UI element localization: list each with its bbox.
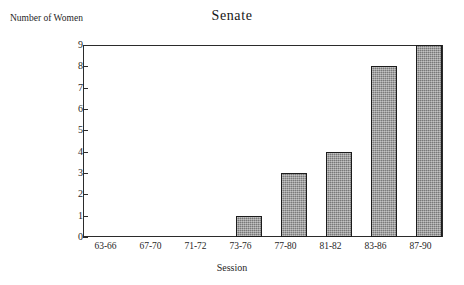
x-axis-tick-label: 81-82 xyxy=(319,241,341,252)
x-axis-tick-label: 67-70 xyxy=(139,241,161,252)
bar xyxy=(326,152,352,237)
y-axis-tick-label: 0 xyxy=(61,232,83,242)
y-axis-tick-label: 1 xyxy=(61,211,83,221)
y-axis-tick-mark xyxy=(83,237,88,238)
bar xyxy=(236,216,262,237)
y-axis-tick-label: 4 xyxy=(61,147,83,157)
chart-title: Senate xyxy=(0,8,464,24)
bar-chart: Number of Women Senate 0123456789 63-666… xyxy=(0,0,464,285)
x-axis-title: Session xyxy=(0,262,464,273)
x-axis-tick-label: 83-86 xyxy=(364,241,386,252)
y-axis-tick-label: 5 xyxy=(61,125,83,135)
x-axis-tick-label: 63-66 xyxy=(94,241,116,252)
x-axis-tick-label: 73-76 xyxy=(229,241,251,252)
bar xyxy=(281,173,307,237)
y-axis-tick-label: 3 xyxy=(61,168,83,178)
y-axis-tick-label: 2 xyxy=(61,189,83,199)
bar xyxy=(371,66,397,237)
y-axis-tick-label: 7 xyxy=(61,83,83,93)
x-axis-tick-label: 71-72 xyxy=(184,241,206,252)
y-axis-tick-label: 8 xyxy=(61,61,83,71)
bar xyxy=(416,45,442,237)
y-axis-tick-label: 6 xyxy=(61,104,83,114)
x-axis-tick-label: 77-80 xyxy=(274,241,296,252)
x-axis-tick-label: 87-90 xyxy=(409,241,431,252)
y-axis-tick-label: 9 xyxy=(61,40,83,50)
